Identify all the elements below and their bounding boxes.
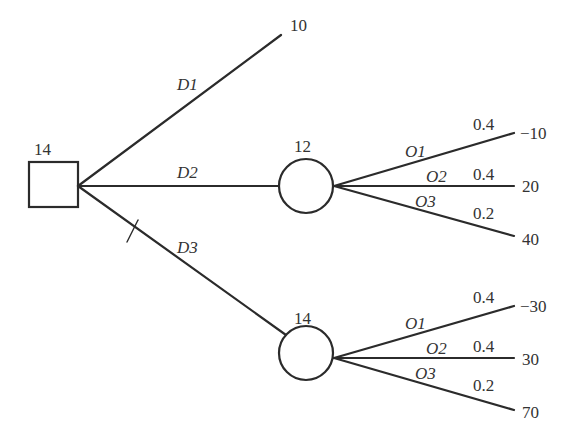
- outcome-payoff: 20: [522, 177, 539, 196]
- outcome-prob: 0.4: [473, 165, 495, 184]
- branch-d3-label: D3: [176, 238, 198, 257]
- decision-tree: 14 D1 10 D2 D3 12 O1 O2 O3 0.4 0.4 0.2 −…: [0, 0, 577, 446]
- outcome-payoff: −30: [520, 297, 547, 316]
- outcome-label: O1: [405, 142, 426, 161]
- outcome-label: O2: [426, 167, 447, 186]
- outcome-label: O3: [415, 364, 436, 383]
- decision-node-value: 14: [34, 140, 52, 159]
- branch-d1-payoff: 10: [290, 16, 307, 35]
- outcome-label: O2: [426, 339, 447, 358]
- chance-node-2: [279, 326, 333, 380]
- outcome-payoff: 70: [522, 403, 539, 422]
- chance-node-2-value: 14: [294, 309, 312, 328]
- branch-d1-label: D1: [176, 75, 198, 94]
- outcome-prob: 0.4: [473, 115, 495, 134]
- outcome-prob: 0.4: [473, 337, 495, 356]
- outcome-payoff: −10: [520, 124, 547, 143]
- decision-node: [29, 162, 78, 207]
- outcome-payoff: 30: [522, 350, 539, 369]
- chance-node-1-value: 12: [294, 137, 311, 156]
- outcome-label: O1: [405, 314, 426, 333]
- outcome-prob: 0.2: [473, 376, 494, 395]
- outcome-label: O3: [415, 192, 436, 211]
- outcome-payoff: 40: [522, 230, 539, 249]
- branch-d3: [78, 186, 286, 335]
- branch-d2-label: D2: [176, 163, 198, 182]
- outcome-prob: 0.2: [473, 204, 494, 223]
- chance-node-1: [279, 159, 333, 213]
- outcome-prob: 0.4: [473, 288, 495, 307]
